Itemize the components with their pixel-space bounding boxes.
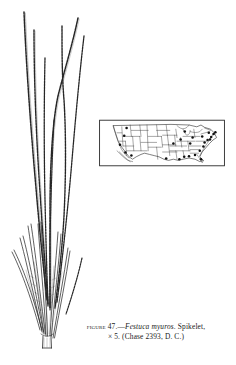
map-dot (208, 132, 211, 135)
map-dot (199, 150, 202, 153)
map-dot (194, 154, 197, 157)
map-dot (189, 142, 192, 145)
map-dot (214, 131, 217, 134)
map-dot (123, 135, 126, 138)
map-dot (209, 138, 212, 141)
map-dot (203, 141, 206, 144)
awn-6 (57, 36, 84, 302)
lemma-left-1-inner (23, 236, 44, 332)
map-dot (130, 154, 133, 157)
map-dot (191, 136, 194, 139)
figure-plate: Figure 47.—Festuca myuros. Spikelet, × 5… (0, 0, 236, 365)
map-dot (206, 139, 209, 142)
figure-caption: Figure 47.—Festuca myuros. Spikelet, × 5… (58, 322, 234, 341)
us-map-canvas (99, 104, 225, 182)
map-dot (202, 145, 205, 148)
awn-4 (50, 18, 78, 308)
awn-5 (55, 26, 66, 308)
caption-line-2: × 5. (Chase 2393, D. C.) (58, 332, 234, 342)
caption-line-1: Figure 47.—Festuca myuros. Spikelet, (58, 322, 234, 332)
map-dot (125, 127, 128, 130)
map-dot (200, 158, 203, 161)
awn-8-detached (66, 258, 82, 314)
map-dot (201, 135, 204, 138)
map-dot (165, 157, 168, 160)
map-dot (178, 158, 181, 161)
caption-dash: — (117, 322, 125, 331)
collection-citation: (Chase 2393, D. C.) (122, 332, 184, 341)
figure-number: Figure 47. (87, 322, 118, 331)
glume-lower-left (12, 252, 40, 330)
map-dot (210, 136, 213, 139)
map-dot (119, 144, 122, 147)
caption-part: . Spikelet, (174, 322, 205, 331)
magnification: × 5. (108, 332, 120, 341)
awn-group (24, 12, 84, 314)
map-dot (184, 130, 187, 133)
species-name: Festuca myuros (125, 322, 174, 331)
pedicel-right (51, 336, 52, 348)
map-dot (188, 155, 191, 158)
map-dot (179, 138, 182, 141)
spikelet-illustration (0, 0, 110, 352)
pedicel-group (41, 334, 53, 348)
spikelet-drawing-canvas (0, 0, 110, 352)
pedicel-left (43, 336, 44, 348)
map-dot (212, 133, 215, 136)
map-dot (124, 151, 127, 154)
map-dot (172, 142, 175, 145)
map-dot (183, 156, 186, 159)
distribution-map (99, 104, 225, 182)
